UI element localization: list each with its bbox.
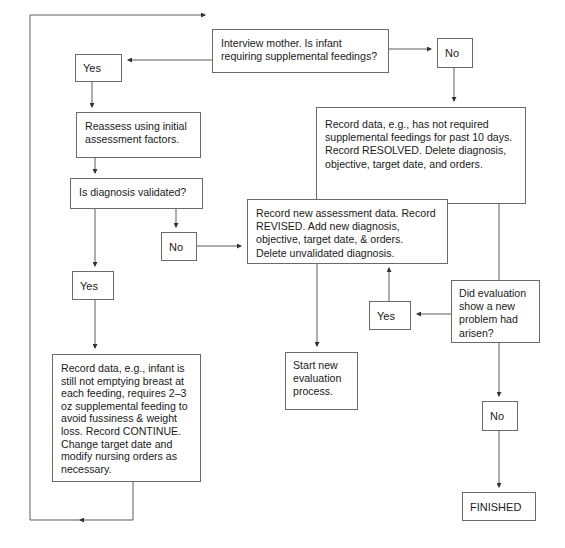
record-revised-box: Record new assessment data. Record REVIS… [247, 199, 448, 264]
record-continue-box: Record data, e.g., infant is still not e… [52, 354, 201, 482]
resolved-text: Record data, e.g., has not required supp… [325, 118, 517, 171]
new-problem-question: Did evaluation show a new problem had ar… [451, 280, 540, 343]
start-new-text: Start new evaluation process. [293, 359, 350, 399]
diagnosis-validated-question: Is diagnosis validated? [70, 178, 203, 209]
yes-label-top: Yes [75, 54, 122, 82]
reassess-box: Reassess using initial assessment factor… [76, 112, 201, 158]
revised-text: Record new assessment data. Record REVIS… [256, 207, 439, 260]
yes-text: Yes [83, 62, 101, 74]
yes-text: Yes [80, 280, 98, 292]
validated-text: Is diagnosis validated? [79, 186, 194, 199]
no-label-bottom: No [482, 401, 518, 431]
yes-text: Yes [377, 310, 395, 322]
yes-label-right: Yes [369, 301, 411, 330]
no-label-top: No [437, 38, 473, 68]
finished-box: FINISHED [462, 492, 536, 521]
reassess-text: Reassess using initial assessment factor… [85, 120, 192, 146]
record-resolved-box: Record data, e.g., has not required supp… [316, 107, 526, 204]
interview-text: Interview mother. Is infant requiring su… [221, 37, 380, 63]
no-text: No [490, 410, 504, 422]
finished-text: FINISHED [470, 501, 521, 513]
interview-mother-question: Interview mother. Is infant requiring su… [212, 29, 389, 73]
no-text: No [445, 47, 459, 59]
continue-text: Record data, e.g., infant is still not e… [61, 362, 192, 475]
no-label-middle: No [161, 232, 197, 261]
start-new-evaluation-box: Start new evaluation process. [285, 352, 358, 410]
no-text: No [169, 241, 183, 253]
new-problem-text: Did evaluation show a new problem had ar… [459, 287, 532, 340]
yes-label-middle: Yes [72, 271, 114, 300]
